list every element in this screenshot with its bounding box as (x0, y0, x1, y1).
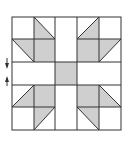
solid-center (55, 62, 77, 85)
quilt-block-svg (0, 0, 129, 142)
solid-r3-c1 (34, 85, 55, 107)
quilt-block-diagram (0, 0, 129, 142)
arrow-down-icon (5, 58, 9, 69)
arrow-up-icon (5, 76, 9, 86)
solid-r3-c3 (77, 85, 99, 107)
solid-r1-c1 (34, 39, 55, 62)
solid-r1-c3 (77, 39, 99, 62)
gray-patches (12, 17, 121, 130)
dimension-arrows (5, 58, 9, 86)
